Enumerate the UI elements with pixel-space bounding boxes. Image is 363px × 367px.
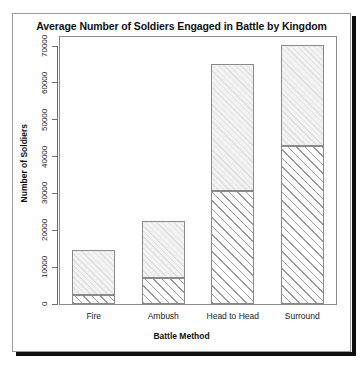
x-tick-label-surround: Surround: [268, 311, 338, 321]
bar-segment-lower[interactable]: [142, 278, 185, 304]
y-tick-0: [52, 304, 57, 305]
y-tick-label-0: 0: [40, 289, 49, 319]
window-top-strip: [0, 0, 363, 13]
x-tick-label-fire: Fire: [59, 311, 129, 321]
y-tick-label-30000: 30000: [40, 178, 49, 208]
bar-segment-upper[interactable]: [142, 221, 185, 278]
y-tick-20000: [52, 230, 57, 231]
y-tick-70000: [52, 46, 57, 47]
chart-figure: Average Number of Soldiers Engaged in Ba…: [13, 14, 350, 351]
bar-segment-lower[interactable]: [211, 191, 254, 304]
chart-title: Average Number of Soldiers Engaged in Ba…: [13, 20, 350, 32]
bar-segment-upper[interactable]: [72, 250, 115, 295]
x-axis-title: Battle Method: [13, 331, 350, 341]
chart-panel: Average Number of Soldiers Engaged in Ba…: [12, 13, 351, 352]
y-tick-30000: [52, 193, 57, 194]
y-tick-40000: [52, 156, 57, 157]
x-tick-label-head-to-head: Head to Head: [198, 311, 268, 321]
y-tick-50000: [52, 119, 57, 120]
panel-shadow-right: [352, 16, 356, 356]
bar-segment-lower[interactable]: [281, 146, 324, 304]
y-tick-label-20000: 20000: [40, 215, 49, 245]
chart-window: Average Number of Soldiers Engaged in Ba…: [0, 0, 363, 367]
panel-shadow-bottom: [16, 352, 356, 356]
x-tick-label-ambush: Ambush: [129, 311, 199, 321]
y-axis-line: [57, 46, 58, 305]
bar-segment-upper[interactable]: [211, 64, 254, 191]
bar-segment-lower[interactable]: [72, 295, 115, 304]
y-axis-title: Number of Soldiers: [19, 124, 29, 202]
y-tick-60000: [52, 82, 57, 83]
y-tick-label-70000: 70000: [40, 31, 49, 61]
y-tick-label-10000: 10000: [40, 252, 49, 282]
bar-segment-upper[interactable]: [281, 45, 324, 146]
y-tick-10000: [52, 267, 57, 268]
y-tick-label-60000: 60000: [40, 68, 49, 98]
y-tick-label-40000: 40000: [40, 142, 49, 172]
y-tick-label-50000: 50000: [40, 105, 49, 135]
